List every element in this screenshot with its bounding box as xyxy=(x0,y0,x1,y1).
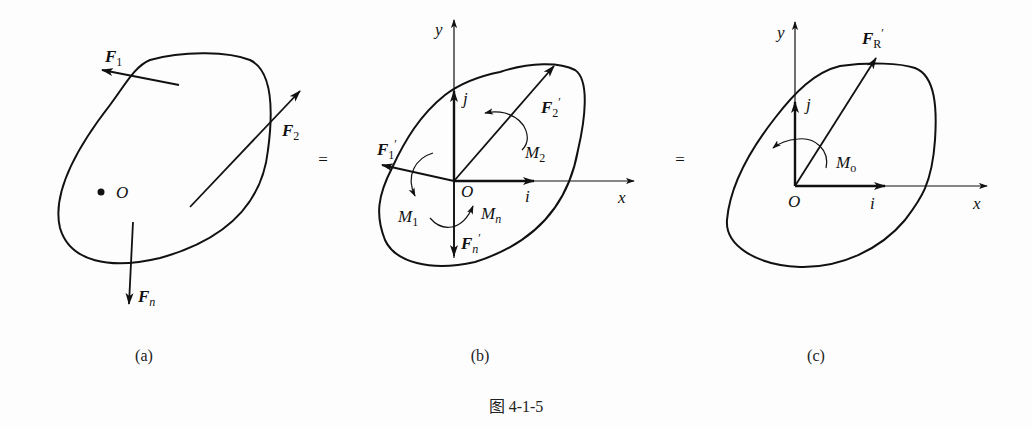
x-axis-label: x xyxy=(972,194,981,213)
rigid-body-outline xyxy=(727,64,936,268)
panel-b-label: (b) xyxy=(471,347,490,365)
rigid-body-outline xyxy=(58,53,270,263)
equals-sign-2: = xyxy=(675,150,685,169)
moment-m1-label: M1 xyxy=(397,207,418,229)
unit-vector-j-label: j xyxy=(461,89,468,108)
panel-a: O F1 F2 Fn (a) xyxy=(58,47,300,365)
point-o xyxy=(98,189,105,196)
moment-mn-label: Mn xyxy=(480,204,501,226)
equals-sign-1: = xyxy=(318,150,328,169)
force-f1-label: F1 xyxy=(104,47,122,69)
figure-caption: 图 4-1-5 xyxy=(489,398,544,415)
unit-vector-i-label: i xyxy=(870,194,875,213)
moment-mn-arrow xyxy=(430,206,473,227)
y-axis-label: y xyxy=(775,23,785,42)
y-axis-label: y xyxy=(433,20,443,39)
force-f1prime-arrow xyxy=(382,165,454,181)
force-f2-arrow xyxy=(190,91,300,207)
force-frprime-label: FR′ xyxy=(861,26,884,51)
force-f2prime-label: F2′ xyxy=(540,95,561,120)
panel-a-label: (a) xyxy=(135,347,153,365)
origin-o-label: O xyxy=(788,192,800,211)
force-fnprime-label: Fn′ xyxy=(460,231,481,256)
panel-c: y x O i j FR′ Mo (c) xyxy=(727,22,987,365)
force-f1-arrow xyxy=(102,70,179,85)
unit-vector-i-label: i xyxy=(525,187,530,206)
x-axis-label: x xyxy=(617,188,626,207)
moment-m2-arrow xyxy=(485,112,527,150)
force-f2-label: F2 xyxy=(281,121,299,143)
force-fn-label: Fn xyxy=(137,287,155,309)
force-f1prime-label: F1′ xyxy=(376,137,397,162)
origin-o-label: O xyxy=(461,182,473,201)
moment-m2-label: M2 xyxy=(524,143,545,165)
panel-b: y x O i j F2′ F1′ Fn′ M2 M1 Mn (b) xyxy=(376,20,634,365)
rigid-body-outline xyxy=(379,64,585,266)
point-o-label: O xyxy=(116,183,128,202)
moment-mo-label: Mo xyxy=(835,153,856,175)
moment-mo-arrow xyxy=(773,139,827,168)
panel-c-label: (c) xyxy=(807,347,825,365)
figure-4-1-5: O F1 F2 Fn (a) = y x O i j F2′ F1′ Fn′ M… xyxy=(0,0,1032,429)
unit-vector-j-label: j xyxy=(804,95,811,114)
